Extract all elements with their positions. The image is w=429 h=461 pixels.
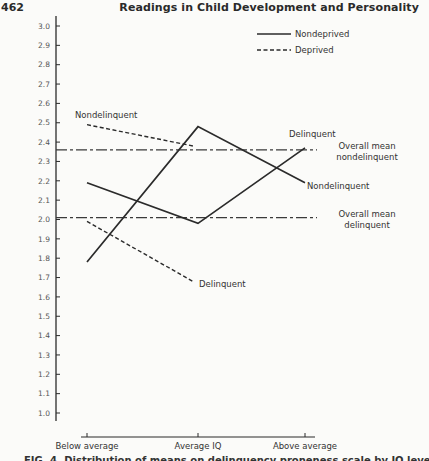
series-label: Delinquent [199, 279, 246, 289]
y-tick-label: 2.8 [38, 60, 50, 69]
series-line [87, 221, 193, 281]
y-tick-label: 2.9 [38, 41, 50, 50]
y-tick-label: 1.5 [38, 312, 50, 321]
series-line [87, 125, 193, 146]
line-chart: 3.02.92.82.72.62.52.42.32.22.12.01.91.81… [0, 0, 429, 461]
y-tick-label: 1.7 [38, 273, 50, 282]
y-tick-label: 1.4 [38, 331, 50, 340]
reference-label: Overall mean [338, 141, 395, 151]
y-axis: 3.02.92.82.72.62.52.42.32.22.12.01.91.81… [38, 16, 60, 421]
y-tick-label: 2.0 [38, 215, 50, 224]
y-tick-label: 2.1 [38, 196, 50, 205]
reference-label: nondelinquent [336, 152, 398, 162]
y-tick-label: 2.6 [38, 99, 50, 108]
series-label: Delinquent [289, 129, 336, 139]
y-tick-label: 2.5 [38, 118, 50, 127]
legend-label: Deprived [295, 45, 334, 55]
figure-caption: FIG. 4. Distribution of means on delinqu… [24, 452, 429, 461]
series-annotations: DelinquentNondelinquentNondelinquentDeli… [75, 110, 370, 289]
series-label: Nondelinquent [307, 181, 370, 191]
reference-label: delinquent [344, 220, 390, 230]
reference-label: Overall mean [338, 209, 395, 219]
y-tick-label: 1.0 [38, 409, 50, 418]
y-tick-label: 3.0 [38, 22, 50, 31]
x-category-label: Above average [273, 441, 337, 451]
data-series [87, 125, 305, 282]
x-category-label: Average IQ [175, 441, 222, 451]
y-tick-label: 1.1 [38, 389, 50, 398]
x-axis: Below averageAverage IQAbove average [55, 433, 337, 451]
legend: NondeprivedDeprived [257, 29, 349, 55]
y-tick-label: 2.3 [38, 157, 50, 166]
y-tick-label: 1.2 [38, 370, 50, 379]
y-tick-label: 1.3 [38, 351, 50, 360]
x-category-label: Below average [55, 441, 118, 451]
series-line [87, 148, 305, 223]
y-tick-label: 2.7 [38, 80, 50, 89]
y-tick-label: 1.8 [38, 254, 50, 263]
legend-label: Nondeprived [295, 29, 349, 39]
y-tick-label: 2.4 [38, 138, 50, 147]
y-tick-label: 1.6 [38, 293, 50, 302]
y-tick-label: 1.9 [38, 235, 50, 244]
series-label: Nondelinquent [75, 110, 138, 120]
y-tick-label: 2.2 [38, 177, 50, 186]
